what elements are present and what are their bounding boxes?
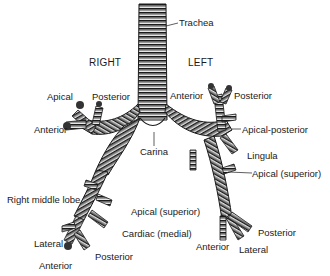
label-left-lateral-basal: Lateral	[239, 244, 268, 255]
label-right-anterior: Anterior	[34, 124, 67, 135]
label-left-apical-superior: Apical (superior)	[252, 168, 321, 179]
label-carina: Carina	[140, 146, 168, 157]
label-right-apical: Apical	[47, 91, 73, 102]
label-left-apical-posterior: Apical-posterior	[242, 124, 308, 135]
label-left-lingula: Lingula	[247, 150, 278, 161]
label-trachea: Trachea	[179, 17, 214, 28]
label-right-middle-lobe: Right middle lobe	[7, 194, 80, 205]
label-right-lateral: Lateral	[34, 238, 63, 249]
right-main-bronchus	[82, 104, 140, 175]
label-left-posterior-basal: Posterior	[258, 227, 296, 238]
right-lower-lobe-branches	[62, 170, 112, 250]
label-left-anterior: Anterior	[170, 90, 203, 101]
left-lower-lobe-branches	[190, 136, 252, 240]
bronchial-tree-diagram: Trachea RIGHT LEFT Apical Posterior Ante…	[0, 0, 330, 276]
label-right-apical-superior: Apical (superior)	[131, 206, 200, 217]
trachea-shape	[138, 4, 167, 120]
label-side-left: LEFT	[188, 57, 213, 68]
label-right-posterior: Posterior	[92, 91, 130, 102]
label-side-right: RIGHT	[89, 57, 121, 68]
label-right-posterior-basal: Posterior	[95, 251, 133, 262]
label-left-anterior-basal: Anterior	[196, 241, 229, 252]
label-right-anterior-basal: Anterior	[39, 260, 72, 271]
label-right-cardiac-medial: Cardiac (medial)	[122, 228, 192, 239]
label-left-posterior: Posterior	[234, 90, 272, 101]
